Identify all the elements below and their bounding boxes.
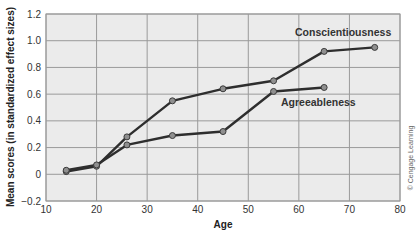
copyright-credit: © Cengage Learning xyxy=(407,126,415,191)
data-point-marker xyxy=(271,78,277,84)
y-tick-label: 1.2 xyxy=(27,9,41,20)
x-axis-ticks: 1020304050607080 xyxy=(40,204,406,215)
y-tick-label: 0.2 xyxy=(27,142,41,153)
y-tick-label: 0 xyxy=(35,169,41,180)
x-tick-label: 60 xyxy=(293,204,305,215)
x-tick-label: 80 xyxy=(394,204,406,215)
y-tick-label: −0.2 xyxy=(21,196,41,207)
y-tick-label: 0.4 xyxy=(27,115,41,126)
data-point-marker xyxy=(372,44,378,50)
series-label-agreeableness: Agreeableness xyxy=(281,96,356,108)
x-tick-label: 50 xyxy=(243,204,255,215)
y-tick-label: 1.0 xyxy=(27,35,41,46)
y-tick-label: 0.8 xyxy=(27,62,41,73)
data-point-marker xyxy=(271,88,277,94)
y-tick-label: 0.6 xyxy=(27,89,41,100)
x-tick-label: 40 xyxy=(192,204,204,215)
line-chart: −0.200.20.40.60.81.01.2 1020304050607080… xyxy=(0,0,420,237)
x-tick-label: 20 xyxy=(91,204,103,215)
x-axis-title: Age xyxy=(214,219,233,230)
x-tick-label: 10 xyxy=(40,204,52,215)
data-point-marker xyxy=(124,134,130,140)
x-tick-label: 70 xyxy=(344,204,356,215)
data-point-marker xyxy=(321,48,327,54)
series-label-conscientiousness: Conscientiousness xyxy=(295,26,391,38)
data-point-marker xyxy=(220,86,226,92)
data-point-marker xyxy=(124,142,130,148)
data-point-marker xyxy=(169,133,175,139)
x-tick-label: 30 xyxy=(142,204,154,215)
data-point-marker xyxy=(220,129,226,135)
data-point-marker xyxy=(63,167,69,173)
data-point-marker xyxy=(94,162,100,168)
data-point-marker xyxy=(321,84,327,90)
y-axis-title: Mean scores (in standardized effect size… xyxy=(5,7,16,207)
y-axis-ticks: −0.200.20.40.60.81.01.2 xyxy=(21,9,41,207)
data-point-marker xyxy=(169,98,175,104)
